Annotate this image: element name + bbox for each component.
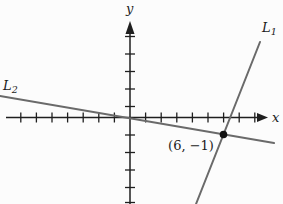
line-l1-label-main: L <box>261 20 271 35</box>
y-axis-arrowhead-icon <box>126 21 135 34</box>
x-axis-arrowhead-icon <box>257 113 268 122</box>
line-l2-label-main: L <box>2 78 12 93</box>
y-axis-label: y <box>125 1 134 16</box>
line-l2-label: L2 <box>2 78 18 95</box>
line-l2 <box>0 96 274 143</box>
point-coordinates-label: (6, −1) <box>168 138 214 153</box>
coordinate-plane-figure: y x L1 L2 (6, −1) <box>0 0 283 204</box>
line-l2-label-sub: 2 <box>11 84 18 95</box>
graph-canvas: y x L1 L2 (6, −1) <box>0 0 283 204</box>
line-l1 <box>196 42 260 204</box>
line-l1-label-sub: 1 <box>271 26 277 37</box>
line-l1-label: L1 <box>261 20 277 37</box>
x-axis-label: x <box>272 110 280 125</box>
point-marker <box>220 131 228 139</box>
